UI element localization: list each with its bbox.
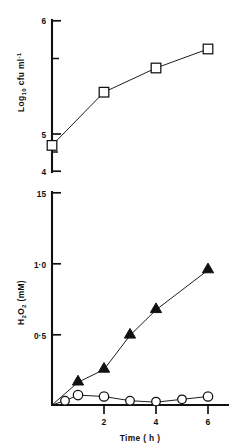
growth-point-0h bbox=[47, 141, 57, 151]
peroxide-circle-2h bbox=[99, 392, 108, 401]
peroxide-triangle-4h bbox=[150, 303, 161, 313]
two-panel-figure: Log10 cfu ml-1 6 5 4 H2O2 (m bbox=[0, 0, 235, 446]
peroxide-triangle-6h bbox=[202, 263, 213, 273]
peroxide-xticklabel-2: 2 bbox=[102, 417, 107, 427]
peroxide-xticklabel-4: 4 bbox=[154, 417, 159, 427]
peroxide-circle-4h bbox=[152, 397, 161, 406]
peroxide-triangle-3h bbox=[124, 328, 135, 338]
growth-series-line bbox=[52, 49, 208, 145]
growth-ticklabel-6: 6 bbox=[41, 16, 46, 26]
growth-ticklabel-4: 4 bbox=[41, 167, 46, 177]
growth-panel: Log10 cfu ml-1 6 5 4 bbox=[15, 16, 213, 177]
growth-y-axis-title: Log10 cfu ml-1 bbox=[15, 52, 27, 112]
peroxide-panel: H2O2 (mM) 15 1·0 0·5 2 4 6 Time ( h ) bbox=[16, 189, 228, 444]
growth-point-6h bbox=[203, 44, 213, 54]
peroxide-x-axis-title: Time ( h ) bbox=[120, 433, 161, 443]
peroxide-axes bbox=[52, 192, 228, 405]
growth-point-2h bbox=[99, 87, 109, 97]
peroxide-ticklabel-1-5: 15 bbox=[37, 189, 47, 199]
peroxide-circle-6h bbox=[203, 392, 212, 401]
peroxide-ticklabel-1-0: 1·0 bbox=[34, 260, 46, 270]
peroxide-circle-5h bbox=[178, 395, 187, 404]
growth-point-4h bbox=[151, 63, 161, 73]
peroxide-circle-3h bbox=[126, 396, 135, 405]
growth-ticklabel-5: 5 bbox=[41, 130, 46, 140]
peroxide-circle-1h bbox=[73, 390, 82, 399]
peroxide-y-axis-title: H2O2 (mM) bbox=[16, 280, 27, 325]
peroxide-circle-0-5h bbox=[61, 396, 70, 405]
peroxide-xticklabel-6: 6 bbox=[206, 417, 211, 427]
peroxide-ticklabel-0-5: 0·5 bbox=[34, 331, 46, 341]
figure-container: Log10 cfu ml-1 6 5 4 H2O2 (m bbox=[0, 0, 235, 446]
